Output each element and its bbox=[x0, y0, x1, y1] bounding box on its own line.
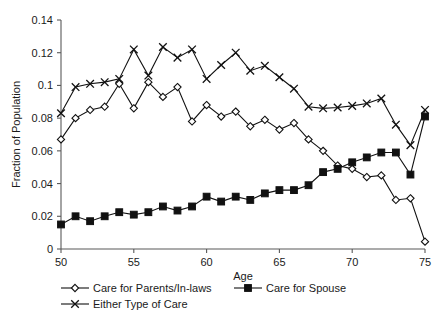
series-line bbox=[61, 47, 425, 145]
data-point-marker bbox=[145, 209, 152, 216]
y-tick-label: 0.06 bbox=[32, 145, 53, 157]
data-point-marker bbox=[189, 203, 196, 210]
series-3 bbox=[57, 43, 429, 149]
data-point-marker bbox=[71, 284, 78, 291]
x-tick-label: 75 bbox=[419, 256, 431, 268]
x-tick-label: 70 bbox=[346, 256, 358, 268]
data-point-marker bbox=[363, 173, 370, 180]
data-point-marker bbox=[378, 172, 385, 179]
data-point-marker bbox=[349, 159, 356, 166]
series-line bbox=[61, 117, 425, 225]
data-point-marker bbox=[160, 203, 167, 210]
data-point-marker bbox=[407, 195, 414, 202]
data-point-marker bbox=[392, 149, 399, 156]
data-point-marker bbox=[378, 149, 385, 156]
x-axis-title: Age bbox=[233, 270, 253, 282]
data-point-marker bbox=[203, 193, 210, 200]
y-tick-label: 0.08 bbox=[32, 112, 53, 124]
line-chart: 00.020.040.060.080.10.120.14505560657075… bbox=[0, 0, 438, 319]
legend-label: Either Type of Care bbox=[93, 298, 188, 310]
data-point-marker bbox=[174, 83, 181, 90]
data-point-marker bbox=[130, 105, 137, 112]
data-point-marker bbox=[130, 211, 137, 218]
x-tick-label: 65 bbox=[273, 256, 285, 268]
data-point-marker bbox=[57, 136, 64, 143]
data-point-marker bbox=[363, 154, 370, 161]
data-point-marker bbox=[349, 165, 356, 172]
data-point-marker bbox=[116, 209, 123, 216]
data-point-marker bbox=[72, 213, 79, 220]
data-point-marker bbox=[101, 103, 108, 110]
data-point-marker bbox=[247, 197, 254, 204]
data-point-marker bbox=[305, 182, 312, 189]
data-point-marker bbox=[392, 196, 399, 203]
legend-item-1[interactable]: Care for Parents/In-laws bbox=[61, 282, 212, 294]
data-point-marker bbox=[291, 187, 298, 194]
y-axis-title: Fraction of Population bbox=[10, 81, 22, 188]
data-point-marker bbox=[276, 187, 283, 194]
legend-item-3[interactable]: Either Type of Care bbox=[61, 298, 188, 310]
series-2 bbox=[58, 113, 429, 228]
y-tick-label: 0.1 bbox=[38, 79, 53, 91]
y-tick-label: 0.04 bbox=[32, 178, 53, 190]
data-point-marker bbox=[320, 169, 327, 176]
series-1 bbox=[57, 79, 428, 246]
y-tick-label: 0.14 bbox=[32, 14, 53, 26]
y-tick-label: 0 bbox=[47, 243, 53, 255]
data-point-marker bbox=[87, 218, 94, 225]
y-tick-label: 0.02 bbox=[32, 210, 53, 222]
data-point-marker bbox=[276, 126, 283, 133]
legend-label: Care for Spouse bbox=[266, 282, 346, 294]
data-point-marker bbox=[72, 115, 79, 122]
data-point-marker bbox=[407, 171, 414, 178]
data-point-marker bbox=[232, 193, 239, 200]
x-tick-label: 55 bbox=[128, 256, 140, 268]
data-point-marker bbox=[245, 285, 252, 292]
y-tick-label: 0.12 bbox=[32, 47, 53, 59]
data-point-marker bbox=[101, 213, 108, 220]
data-point-marker bbox=[218, 198, 225, 205]
series-line bbox=[61, 82, 425, 241]
data-point-marker bbox=[261, 116, 268, 123]
legend-label: Care for Parents/In-laws bbox=[93, 282, 212, 294]
data-point-marker bbox=[334, 165, 341, 172]
chart-container: 00.020.040.060.080.10.120.14505560657075… bbox=[0, 0, 438, 319]
data-point-marker bbox=[174, 207, 181, 214]
legend-item-2[interactable]: Care for Spouse bbox=[234, 282, 346, 294]
x-tick-label: 60 bbox=[200, 256, 212, 268]
x-tick-label: 50 bbox=[55, 256, 67, 268]
data-point-marker bbox=[58, 221, 65, 228]
data-point-marker bbox=[421, 238, 428, 245]
data-point-marker bbox=[87, 106, 94, 113]
data-point-marker bbox=[261, 190, 268, 197]
